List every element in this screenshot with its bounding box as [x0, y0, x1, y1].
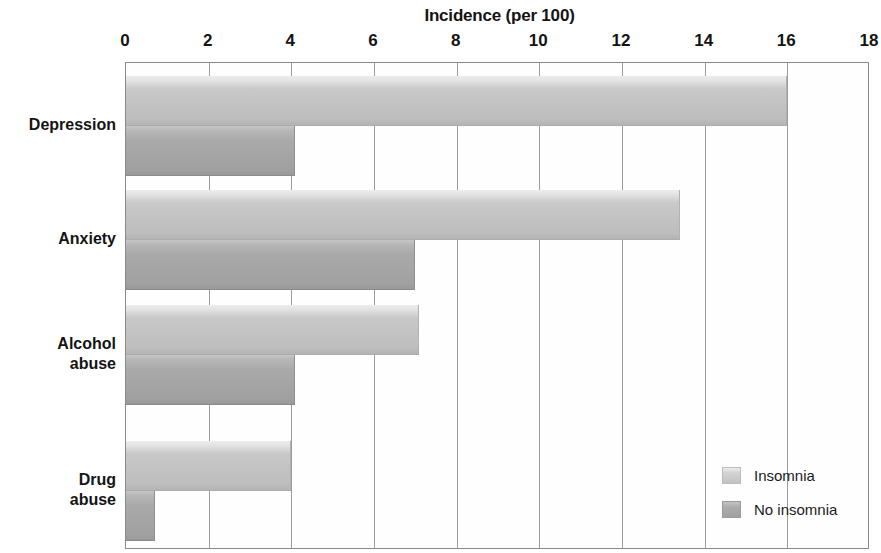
legend-item-insomnia[interactable]: Insomnia [722, 458, 837, 492]
bar-no-insomnia-anxiety [126, 240, 415, 290]
gridline-8 [457, 63, 458, 548]
bar-insomnia-drug-abuse [126, 441, 291, 491]
x-tick-18: 18 [860, 31, 879, 51]
bar-no-insomnia-drug-abuse [126, 491, 155, 541]
bar-insomnia-depression [126, 76, 787, 126]
x-tick-10: 10 [529, 31, 548, 51]
bar-no-insomnia-depression [126, 126, 295, 176]
gridline-12 [622, 63, 623, 548]
category-label-depression: Depression [0, 115, 116, 135]
x-tick-2: 2 [203, 31, 212, 51]
chart-title: Incidence (per 100) [0, 6, 881, 26]
plot-area: InsomniaNo insomnia [125, 62, 869, 549]
legend-item-no-insomnia[interactable]: No insomnia [722, 492, 837, 526]
category-label-alcohol-abuse: Alcohol abuse [0, 334, 116, 374]
gridline-14 [705, 63, 706, 548]
x-tick-8: 8 [451, 31, 460, 51]
bar-no-insomnia-alcohol-abuse [126, 355, 295, 405]
chart-legend: InsomniaNo insomnia [722, 458, 837, 526]
x-tick-12: 12 [612, 31, 631, 51]
gridline-10 [539, 63, 540, 548]
x-tick-16: 16 [777, 31, 796, 51]
x-tick-4: 4 [286, 31, 295, 51]
legend-label: No insomnia [754, 501, 837, 518]
bar-insomnia-alcohol-abuse [126, 305, 419, 355]
x-tick-14: 14 [694, 31, 713, 51]
category-label-anxiety: Anxiety [0, 229, 116, 249]
category-label-drug-abuse: Drug abuse [0, 470, 116, 510]
bar-chart: Incidence (per 100) 024681012141618 Depr… [0, 0, 881, 553]
legend-label: Insomnia [754, 467, 815, 484]
bar-insomnia-anxiety [126, 190, 680, 240]
x-tick-0: 0 [120, 31, 129, 51]
legend-swatch-icon [722, 501, 741, 518]
legend-swatch-icon [722, 467, 741, 484]
chart-title-text: Incidence (per 100) [424, 6, 574, 26]
x-tick-6: 6 [368, 31, 377, 51]
